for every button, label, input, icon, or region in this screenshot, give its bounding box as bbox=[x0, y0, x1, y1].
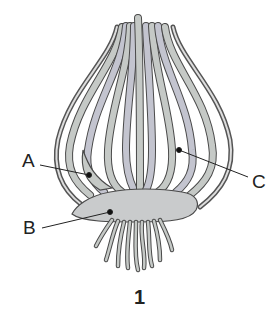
pointer-dot-b bbox=[108, 210, 113, 215]
pointer-dot-c bbox=[177, 148, 182, 153]
figure-number: 1 bbox=[134, 287, 145, 307]
pointer-dot-a bbox=[87, 173, 92, 178]
label-a: A bbox=[22, 151, 35, 170]
onion-bulb-diagram bbox=[0, 0, 279, 317]
roots bbox=[96, 220, 172, 270]
label-b: B bbox=[23, 218, 36, 237]
label-c: C bbox=[252, 172, 266, 191]
leader-line-a bbox=[40, 165, 89, 175]
